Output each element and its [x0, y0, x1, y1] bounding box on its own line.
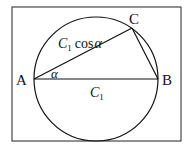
- diameter-length-label: C1: [90, 85, 104, 102]
- side-ac-length-label: C1cosα: [58, 36, 103, 53]
- point-c-label: C: [129, 11, 139, 27]
- side-ac-function: cos: [75, 36, 94, 51]
- geometry-diagram: A B C α C1 C1cosα: [0, 0, 185, 149]
- angle-alpha-label: α: [51, 66, 59, 81]
- side-ac-angle: α: [95, 36, 103, 51]
- diameter-subscript: 1: [99, 92, 104, 102]
- point-b-label: B: [162, 72, 172, 88]
- side-cb: [132, 28, 158, 79]
- side-ac-subscript: 1: [67, 43, 72, 53]
- point-a-label: A: [16, 72, 27, 88]
